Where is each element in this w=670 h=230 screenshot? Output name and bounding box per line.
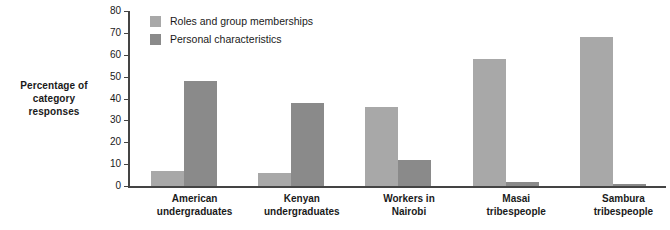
legend-label: Roles and group memberships — [170, 16, 313, 27]
chart-legend: Roles and group membershipsPersonal char… — [150, 14, 313, 50]
legend-item: Personal characteristics — [150, 32, 313, 47]
x-axis-category-label: Americanundergraduates — [130, 192, 237, 218]
bar — [506, 182, 539, 186]
bar — [184, 81, 217, 186]
bar-chart: Percentage of category responses 0102030… — [0, 0, 670, 230]
x-axis-category-label-line: tribespeople — [474, 205, 559, 218]
x-axis-category-label: Samburatribespeople — [559, 192, 666, 218]
bar — [151, 171, 184, 186]
y-tick-label: 20 — [110, 137, 121, 147]
x-axis-line — [128, 186, 666, 188]
y-tick-label: 60 — [110, 50, 121, 60]
x-axis-category-label-line: undergraduates — [259, 205, 344, 218]
y-axis-title-line2: category responses — [29, 93, 80, 117]
legend-label: Personal characteristics — [170, 34, 281, 45]
x-axis-category-label-line: Masai — [474, 192, 559, 205]
y-tick-label: 70 — [110, 28, 121, 38]
x-axis-category-label: Workers inNairobi — [344, 192, 451, 218]
x-axis-category-label: Masaitribespeople — [452, 192, 559, 218]
y-tick-label: 0 — [115, 181, 121, 191]
x-axis-category-label-line: American — [152, 192, 237, 205]
y-tick-mark — [124, 77, 129, 78]
bar — [398, 160, 431, 186]
y-tick-mark — [124, 99, 129, 100]
y-axis-title-line1: Percentage of — [20, 80, 87, 91]
bar — [291, 103, 324, 186]
y-tick-label: 10 — [110, 159, 121, 169]
x-axis-category-label-line: undergraduates — [152, 205, 237, 218]
y-tick-label: 40 — [110, 94, 121, 104]
bar — [580, 37, 613, 186]
bar — [473, 59, 506, 186]
y-tick-label: 30 — [110, 115, 121, 125]
y-tick-mark — [124, 11, 129, 12]
legend-swatch-icon — [150, 16, 161, 27]
legend-swatch-icon — [150, 34, 161, 45]
x-axis-category-labels: AmericanundergraduatesKenyanundergraduat… — [130, 192, 666, 218]
bar-group — [559, 11, 666, 186]
x-axis-category-label-line: Kenyan — [259, 192, 344, 205]
bar-group — [344, 11, 451, 186]
x-axis-category-label-line: tribespeople — [581, 205, 666, 218]
bar — [365, 107, 398, 186]
y-tick-mark — [124, 120, 129, 121]
bar — [258, 173, 291, 186]
legend-item: Roles and group memberships — [150, 14, 313, 29]
y-tick-mark — [124, 33, 129, 34]
x-axis-category-label-line: Nairobi — [366, 205, 451, 218]
bar-group — [452, 11, 559, 186]
y-tick-mark — [124, 186, 129, 187]
y-tick-mark — [124, 164, 129, 165]
x-axis-category-label-line: Workers in — [366, 192, 451, 205]
y-axis-title: Percentage of category responses — [6, 79, 102, 118]
y-tick-mark — [124, 142, 129, 143]
x-axis-category-label: Kenyanundergraduates — [237, 192, 344, 218]
y-tick-mark — [124, 55, 129, 56]
x-axis-category-label-line: Sambura — [581, 192, 666, 205]
bar — [613, 184, 646, 186]
y-tick-label: 80 — [110, 6, 121, 16]
y-tick-label: 50 — [110, 72, 121, 82]
